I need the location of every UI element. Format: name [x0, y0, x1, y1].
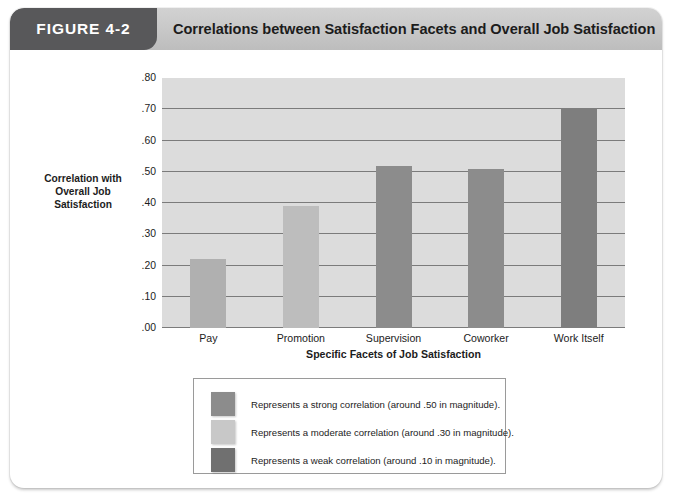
y-tick-label: .20: [114, 261, 156, 271]
y-tick-label: .80: [114, 73, 156, 83]
legend-swatch: [211, 448, 235, 472]
legend-swatch: [211, 392, 235, 416]
legend-item: Represents a strong correlation (around …: [211, 392, 500, 416]
chart-container: Correlation with Overall Job Satisfactio…: [10, 50, 662, 488]
y-tick-label: .40: [114, 198, 156, 208]
legend-item: Represents a moderate correlation (aroun…: [211, 420, 514, 444]
figure-number-label: FIGURE 4-2: [36, 20, 130, 38]
y-tick-label: .30: [114, 229, 156, 239]
y-tick-label: .50: [114, 167, 156, 177]
legend-swatch: [211, 420, 235, 444]
y-tick-label: .70: [114, 104, 156, 114]
legend-label: Represents a weak correlation (around .1…: [251, 455, 496, 466]
legend-item: Represents a weak correlation (around .1…: [211, 448, 496, 472]
y-tick-label: .00: [114, 323, 156, 333]
x-axis-tick-labels: PayPromotionSupervisionCoworkerWork Itse…: [162, 332, 625, 348]
bar: [190, 259, 226, 328]
legend-label: Represents a strong correlation (around …: [251, 399, 500, 410]
x-axis-label: Specific Facets of Job Satisfaction: [162, 348, 625, 360]
figure-title: Correlations between Satisfaction Facets…: [173, 8, 655, 50]
bar: [376, 166, 412, 329]
figure-header: FIGURE 4-2 Correlations between Satisfac…: [10, 8, 662, 50]
plot-area: [162, 78, 625, 328]
chart-legend: Represents a strong correlation (around …: [193, 378, 506, 474]
y-tick-label: .60: [114, 136, 156, 146]
bar: [561, 108, 597, 328]
legend-label: Represents a moderate correlation (aroun…: [251, 427, 514, 438]
y-tick-label: .10: [114, 292, 156, 302]
bar: [468, 169, 504, 328]
x-tick-label: Work Itself: [524, 332, 634, 344]
bar: [283, 206, 319, 328]
figure-number-badge: FIGURE 4-2: [10, 8, 157, 50]
y-axis-tick-labels: .80.70.60.50.40.30.20.10.00: [110, 78, 156, 328]
figure-card: FIGURE 4-2 Correlations between Satisfac…: [10, 8, 662, 488]
bar-series: [162, 78, 625, 328]
